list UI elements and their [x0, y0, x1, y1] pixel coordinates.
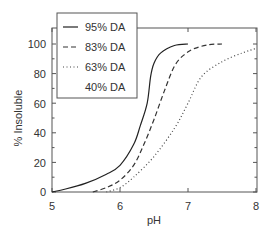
y-tick-label-40: 40 [34, 127, 46, 139]
y-tick-label-100: 100 [28, 38, 46, 50]
y-tick-label-80: 80 [34, 68, 46, 80]
chart: 0 20 40 60 80 100 5 6 7 8 pH % Insoluble… [0, 0, 270, 238]
y-tick-label-0: 0 [40, 186, 46, 198]
x-tick-label-7: 7 [185, 200, 191, 212]
legend: 95% DA 83% DA 63% DA 40% DA [57, 13, 137, 98]
x-tick-label-8: 8 [253, 200, 259, 212]
legend-label-63-da: 63% DA [85, 61, 126, 73]
legend-label-83-da: 83% DA [85, 41, 126, 53]
y-axis-title: % Insoluble [12, 90, 24, 147]
y-tick-label-60: 60 [34, 98, 46, 110]
x-axis-title: pH [147, 214, 161, 226]
x-tick-label-5: 5 [49, 200, 55, 212]
legend-label-95-da: 95% DA [85, 21, 126, 33]
legend-label-40-da: 40% DA [85, 81, 126, 93]
y-tick-label-20: 20 [34, 157, 46, 169]
x-tick-label-6: 6 [117, 200, 123, 212]
